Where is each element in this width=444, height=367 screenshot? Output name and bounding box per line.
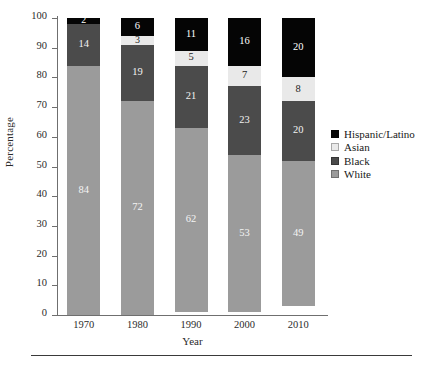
legend-color-swatch xyxy=(331,143,339,151)
y-axis-tick-label: 100 xyxy=(31,10,47,21)
bar-segment-value-label: 49 xyxy=(293,228,304,239)
bar-segment-value-label: 7 xyxy=(242,70,247,81)
y-axis-tick-label: 30 xyxy=(37,218,48,229)
y-axis-tick-label: 10 xyxy=(37,277,48,288)
legend-item-label: White xyxy=(344,168,371,180)
caption-divider xyxy=(31,355,412,356)
bar-segment-black[interactable]: 23 xyxy=(228,86,261,154)
legend-color-swatch xyxy=(331,170,339,178)
bar-segment-value-label: 14 xyxy=(79,39,90,50)
bar-segment-black[interactable]: 21 xyxy=(175,66,208,128)
bar-segment-value-label: 6 xyxy=(135,21,140,32)
bar-segment-asian[interactable]: 5 xyxy=(175,51,208,66)
bar-segment-white[interactable]: 49 xyxy=(282,161,315,307)
bar-segment-black[interactable]: 19 xyxy=(121,45,154,101)
legend-item-label: Hispanic/Latino xyxy=(344,128,415,140)
y-axis-tick-label: 50 xyxy=(37,159,48,170)
bar-segment-value-label: 23 xyxy=(239,115,250,126)
legend-color-swatch xyxy=(331,130,339,138)
stacked-bar[interactable]: 1152162 xyxy=(175,18,208,315)
bar-segment-white[interactable]: 53 xyxy=(228,155,261,312)
bar-segment-value-label: 3 xyxy=(135,35,140,45)
legend-item[interactable]: Asian xyxy=(331,141,443,155)
bar-segment-value-label: 16 xyxy=(239,36,250,47)
y-axis-tick-label: 60 xyxy=(37,129,48,140)
stacked-bar[interactable]: 2082049 xyxy=(282,18,315,315)
stacked-bar-chart-figure: Percentage 0102030405060708090100 214846… xyxy=(0,0,444,367)
x-axis-line xyxy=(57,315,328,316)
y-axis-tick-label: 80 xyxy=(37,69,48,80)
y-axis-tick-label: 20 xyxy=(37,248,48,259)
bar-group[interactable]: 21484 xyxy=(67,18,100,315)
stacked-bar[interactable]: 631972 xyxy=(121,18,154,315)
plot-area: 21484631972115216216723532082049 xyxy=(57,18,325,315)
bar-segment-value-label: 20 xyxy=(293,125,304,136)
y-axis-title: Percentage xyxy=(3,102,15,182)
bar-segment-black[interactable]: 14 xyxy=(67,24,100,66)
bar-segment-value-label: 20 xyxy=(293,42,304,53)
legend-item-label: Asian xyxy=(344,141,370,153)
legend-item[interactable]: Black xyxy=(331,154,443,168)
x-axis-tick-label: 1980 xyxy=(107,319,167,330)
legend-item[interactable]: Hispanic/Latino xyxy=(331,127,443,141)
x-axis-tick-label: 1990 xyxy=(161,319,221,330)
bar-segment-value-label: 21 xyxy=(186,91,197,102)
bar-segment-asian[interactable]: 8 xyxy=(282,77,315,101)
bar-segment-hispanic[interactable]: 16 xyxy=(228,18,261,66)
bar-segment-value-label: 62 xyxy=(186,214,197,225)
x-axis-tick-label: 2010 xyxy=(268,319,328,330)
bar-segment-asian[interactable]: 7 xyxy=(228,66,261,87)
bar-segment-value-label: 8 xyxy=(296,84,301,95)
bar-segment-white[interactable]: 84 xyxy=(67,66,100,315)
stacked-bar[interactable]: 1672353 xyxy=(228,18,261,315)
bar-segment-value-label: 19 xyxy=(132,67,143,78)
y-axis-tick-label: 90 xyxy=(37,40,48,51)
y-axis-tick-label: 0 xyxy=(42,307,47,318)
bar-group[interactable]: 631972 xyxy=(121,18,154,315)
bar-segment-value-label: 84 xyxy=(79,185,90,196)
x-axis-tick-label: 1970 xyxy=(54,319,114,330)
bar-segment-value-label: 72 xyxy=(132,202,143,213)
legend-item-label: Black xyxy=(344,155,370,167)
bar-segment-value-label: 5 xyxy=(188,52,193,63)
chart-legend: Hispanic/LatinoAsianBlackWhite xyxy=(331,127,443,181)
legend-color-swatch xyxy=(331,157,339,165)
bar-segment-value-label: 11 xyxy=(186,29,196,40)
bar-segment-asian[interactable]: 3 xyxy=(121,36,154,45)
caption-text xyxy=(31,360,412,367)
stacked-bar[interactable]: 21484 xyxy=(67,18,100,315)
x-axis-tick-label: 2000 xyxy=(215,319,275,330)
bar-group[interactable]: 1672353 xyxy=(228,18,261,315)
bar-group[interactable]: 1152162 xyxy=(175,18,208,315)
bar-segment-hispanic[interactable]: 11 xyxy=(175,18,208,51)
y-axis-tick-label: 70 xyxy=(37,99,48,110)
bar-segment-white[interactable]: 72 xyxy=(121,101,154,315)
bar-segment-white[interactable]: 62 xyxy=(175,128,208,312)
legend-item[interactable]: White xyxy=(331,168,443,182)
y-axis-tick-mark xyxy=(52,315,57,316)
bar-segment-value-label: 53 xyxy=(239,228,250,239)
y-axis-tick-label: 40 xyxy=(37,188,48,199)
bar-segment-black[interactable]: 20 xyxy=(282,101,315,160)
bar-segment-hispanic[interactable]: 20 xyxy=(282,18,315,77)
bar-group[interactable]: 2082049 xyxy=(282,18,315,315)
x-axis-title: Year xyxy=(57,335,328,347)
